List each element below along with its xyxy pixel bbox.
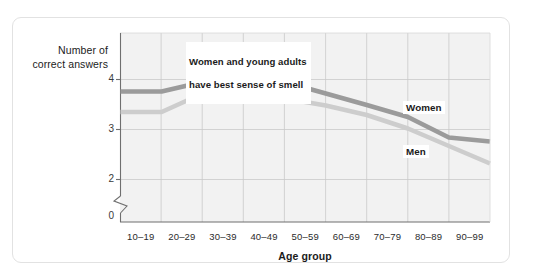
x-axis-title: Age group (120, 250, 490, 262)
annotation-line1: Women and young adults (189, 56, 307, 68)
y-tick-marks (116, 80, 121, 180)
y-tick-label-0: 0 (92, 210, 114, 221)
y-axis-title-line1: Number of (24, 44, 108, 58)
annotation-callout: Women and young adults have best sense o… (186, 42, 311, 104)
y-axis-title-line2: correct answers (24, 58, 108, 72)
y-tick-label-2: 2 (92, 173, 114, 184)
series-label-men: Men (403, 145, 429, 158)
y-tick-label-3: 3 (92, 123, 114, 134)
y-tick-label-4: 4 (92, 73, 114, 84)
x-tick-label-90-99: 90–99 (444, 231, 496, 242)
annotation-line2: have best sense of smell (189, 79, 307, 91)
series-label-women: Women (403, 101, 445, 114)
y-axis-title: Number of correct answers (24, 44, 108, 71)
